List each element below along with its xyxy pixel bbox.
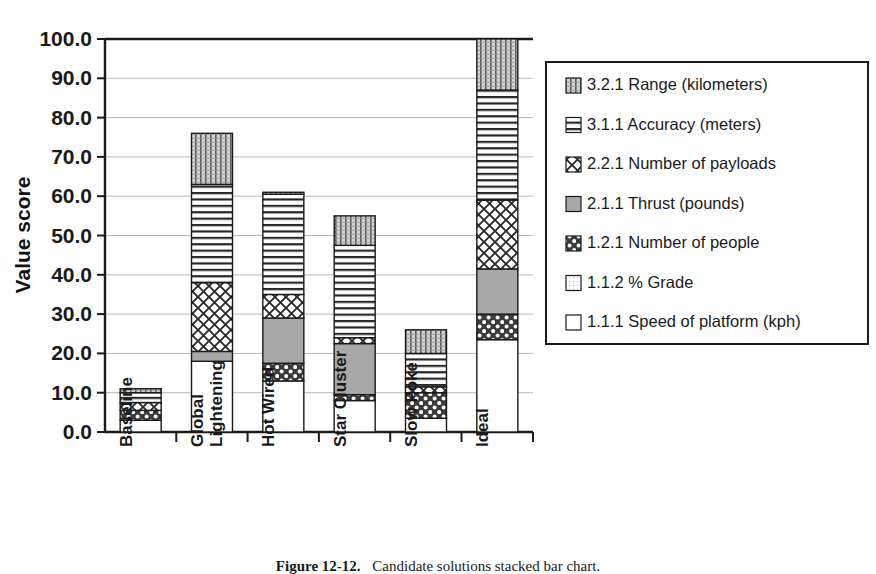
bar-segment-accuracy xyxy=(334,245,375,337)
bar-segment-accuracy xyxy=(263,194,304,294)
y-tick-70: 70.0 xyxy=(51,145,92,168)
caption-text: Candidate solutions stacked bar chart. xyxy=(372,558,600,574)
y-tick-90: 90.0 xyxy=(51,66,92,89)
bar-segment-payloads xyxy=(192,283,233,352)
legend-item-label: 1.1.2 % Grade xyxy=(587,273,693,291)
bar-segment-people xyxy=(477,314,518,340)
y-tick-40: 40.0 xyxy=(51,263,92,286)
bar-segment-range xyxy=(477,39,518,90)
bar-stack xyxy=(477,39,518,432)
legend-item-label: 3.1.1 Accuracy (meters) xyxy=(587,115,761,133)
y-tick-100: 100.0 xyxy=(39,27,92,50)
x-axis-category-label: Lightening xyxy=(207,360,226,447)
y-tick-0: 0.0 xyxy=(63,420,92,443)
caption-figure-number: Figure 12-12. xyxy=(276,558,361,574)
legend-item-label: 2.2.1 Number of payloads xyxy=(587,154,776,172)
y-tick-10: 10.0 xyxy=(51,381,92,404)
y-tick-60: 60.0 xyxy=(51,184,92,207)
bar-segment-payloads xyxy=(334,338,375,344)
bar-segment-payloads xyxy=(477,200,518,269)
legend-item-label: 3.2.1 Range (kilometers) xyxy=(587,75,768,93)
bar-segment-range xyxy=(406,330,447,354)
y-tick-30: 30.0 xyxy=(51,302,92,325)
x-axis-category-label: Star Cluster xyxy=(331,350,350,447)
x-axis-category-label: Ideal xyxy=(473,408,492,447)
bar-segment-accuracy xyxy=(192,184,233,282)
legend-swatch xyxy=(566,78,581,93)
legend-item-label: 1.1.1 Speed of platform (kph) xyxy=(587,312,801,330)
y-axis-tick-labels: 100.0 90.0 80.0 70.0 60.0 50.0 40.0 30.0… xyxy=(39,27,92,443)
bar-segment-thrust xyxy=(263,318,304,363)
bar-segment-range xyxy=(192,133,233,184)
legend-swatch xyxy=(566,276,581,291)
legend-item-label: 2.1.1 Thrust (pounds) xyxy=(587,194,744,212)
legend: 3.2.1 Range (kilometers)3.1.1 Accuracy (… xyxy=(546,62,868,344)
bar-segment-range xyxy=(334,216,375,245)
bar-segment-range xyxy=(263,192,304,194)
y-tick-50: 50.0 xyxy=(51,224,92,247)
figure-caption: Figure 12-12. Candidate solutions stacke… xyxy=(276,558,600,574)
bar-segment-payloads xyxy=(263,294,304,318)
y-tick-20: 20.0 xyxy=(51,341,92,364)
legend-swatch xyxy=(566,315,581,330)
svg-text:Figure 12-12. Candidat: Figure 12-12. Candidate solutions stacke… xyxy=(276,558,600,574)
y-axis-title: Value score xyxy=(11,177,34,294)
x-axis-category-label: Slow Poke xyxy=(402,362,421,447)
bar-segment-thrust xyxy=(477,269,518,314)
y-tick-80: 80.0 xyxy=(51,106,92,129)
bar-segment-thrust xyxy=(192,351,233,361)
bar-segment-accuracy xyxy=(477,90,518,200)
stacked-bar-chart: 100.0 90.0 80.0 70.0 60.0 50.0 40.0 30.0… xyxy=(0,0,876,574)
legend-item-label: 1.2.1 Number of people xyxy=(587,233,759,251)
legend-swatch xyxy=(566,157,581,172)
legend-swatch xyxy=(566,118,581,133)
figure-root: 100.0 90.0 80.0 70.0 60.0 50.0 40.0 30.0… xyxy=(0,0,876,574)
x-axis-category-label: Global xyxy=(188,394,207,447)
legend-swatch xyxy=(566,197,581,212)
x-axis-category-label: Hot Wired xyxy=(259,367,278,447)
legend-swatch xyxy=(566,236,581,251)
x-axis-category-label: Baseline xyxy=(117,377,136,447)
